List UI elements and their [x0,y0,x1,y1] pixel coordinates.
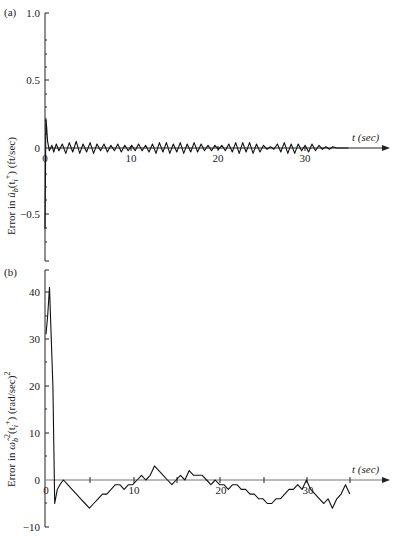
panel-b-ytick-label: −10 [23,521,41,533]
panel-a-ytick-label: −0.5 [20,208,40,220]
panel-a-x-label: t (sec) [352,131,380,144]
panel-a-ytick-label: 0.5 [26,74,40,86]
panel-b-tag: (b) [4,266,17,279]
panel-b-ytick-label: 20 [29,380,41,392]
panel-a: (a) 1.0 0.5 0 −0.5 0 10 20 30 t (sec) [3,6,390,261]
panel-a-ytick-label: 0 [35,142,41,154]
panel-b-ytick-label: 10 [29,427,41,439]
panel-a-xtick-label: 20 [213,152,225,164]
panel-b-ytick-label: 30 [29,333,41,345]
panel-b-ytick-label: 40 [29,286,41,298]
panel-b-x-axis-arrow-icon [382,477,390,483]
panel-b-x-label: t (sec) [352,463,380,476]
panel-a-xtick-label: 10 [126,152,138,164]
panel-a-tag: (a) [4,6,17,19]
panel-b-series-line [46,287,350,508]
figure: (a) 1.0 0.5 0 −0.5 0 10 20 30 t (sec) [0,0,395,536]
panel-a-series-line [45,119,348,229]
panel-b-xtick-label: 0 [43,484,49,496]
panel-b-y-label: Error in ω̂b2(ti+) (rad/sec)2 [3,372,20,487]
panel-a-x-axis-arrow-icon [382,145,390,151]
panel-a-xtick-label: 30 [300,152,312,164]
panel-b-ytick-label: 0 [35,474,41,486]
panel-b-xtick-label: 10 [129,484,141,496]
panel-a-y-label: Error in ûb(ti+) (ft/sec) [3,137,20,235]
panel-a-ytick-label: 1.0 [26,7,40,19]
panel-b: (b) 40 30 20 10 0 −10 0 10 20 30 t (sec)… [3,266,390,533]
